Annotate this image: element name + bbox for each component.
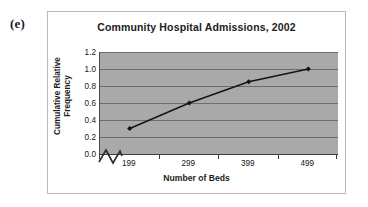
chart-title: Community Hospital Admissions, 2002 xyxy=(48,21,345,33)
data-point-marker xyxy=(127,126,132,131)
data-point-marker xyxy=(306,66,311,71)
x-axis-tick-label: 299 xyxy=(181,159,195,168)
x-axis-title: Number of Beds xyxy=(48,173,345,183)
data-point-marker xyxy=(246,79,251,84)
series-line-chart xyxy=(100,52,338,154)
y-axis-tick-label: 0.2 xyxy=(71,133,96,142)
x-axis-tick-labels: 199299399499 xyxy=(99,159,337,171)
y-axis-tick-label: 0.6 xyxy=(71,99,96,108)
y-axis-tick-labels: 0.00.20.40.60.81.01.2 xyxy=(71,52,96,154)
plot-area xyxy=(99,52,338,154)
y-axis-tick-label: 1.2 xyxy=(71,48,96,57)
y-axis-tick-label: 1.0 xyxy=(71,65,96,74)
y-axis-tick-label: 0.0 xyxy=(71,150,96,159)
x-axis-tick-label: 199 xyxy=(122,159,136,168)
y-axis-tick-label: 0.4 xyxy=(71,116,96,125)
x-axis-tick-label: 399 xyxy=(241,159,255,168)
figure-label: (e) xyxy=(10,16,25,32)
data-point-marker xyxy=(187,100,192,105)
x-axis-tick-label: 499 xyxy=(300,159,314,168)
y-axis-title-line1: Cumulative Relative xyxy=(53,57,62,135)
y-axis-tick-label: 0.8 xyxy=(71,82,96,91)
series-line xyxy=(130,69,309,129)
chart-frame: Community Hospital Admissions, 2002 Cumu… xyxy=(47,11,346,194)
